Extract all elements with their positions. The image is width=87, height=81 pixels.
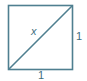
diagonal-line [9, 6, 73, 70]
diagonal-label: x [31, 26, 37, 37]
bottom-side-label: 1 [38, 70, 44, 81]
right-side-label: 1 [76, 31, 82, 42]
